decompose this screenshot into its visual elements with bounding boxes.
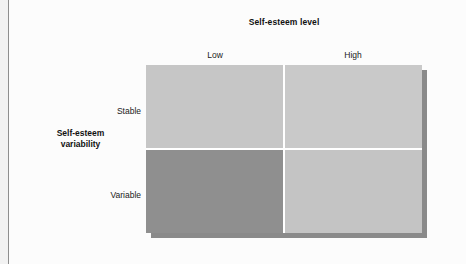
- quadrant-variable-low: [146, 149, 284, 233]
- row-axis-title-line1: Self-esteem: [23, 128, 138, 139]
- row-axis-title-line2: variability: [23, 139, 138, 150]
- matrix-horizontal-divider: [146, 148, 422, 150]
- quadrant-stable-low: [146, 65, 284, 149]
- clipped-caption: [27, 256, 466, 264]
- figure-canvas: Self-esteem level Low High Self-esteem v…: [9, 0, 466, 264]
- quadrant-matrix-wrapper: [146, 65, 422, 233]
- column-label-low: Low: [146, 50, 284, 60]
- column-label-high: High: [284, 50, 422, 60]
- figure-page: Self-esteem level Low High Self-esteem v…: [0, 0, 466, 264]
- row-label-stable: Stable: [23, 106, 141, 116]
- row-label-variable: Variable: [23, 190, 141, 200]
- quadrant-stable-high: [284, 65, 422, 149]
- page-left-margin: [0, 0, 8, 264]
- row-axis-title: Self-esteem variability: [23, 128, 138, 150]
- quadrant-variable-high: [284, 149, 422, 233]
- column-axis-title: Self-esteem level: [146, 17, 422, 27]
